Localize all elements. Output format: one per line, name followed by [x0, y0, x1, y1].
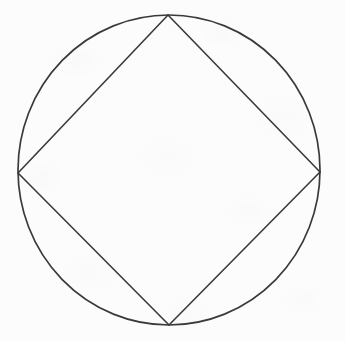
square-edge-bottom-left	[18, 173, 169, 325]
square-edge-top-left	[18, 15, 168, 173]
figure-canvas	[0, 0, 345, 341]
geometry-diagram	[0, 0, 345, 341]
square-edge-bottom-right	[169, 172, 320, 325]
circumscribed-circle	[18, 15, 320, 325]
square-edge-top-right	[168, 15, 320, 172]
